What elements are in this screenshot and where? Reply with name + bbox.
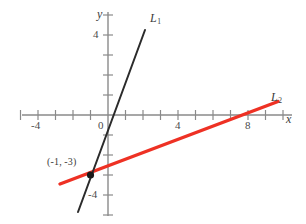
line-L1	[78, 30, 145, 212]
line-L2-label: L2	[271, 91, 281, 103]
line-L1-label-base: L	[150, 11, 157, 25]
intersection-point-marker	[87, 171, 94, 178]
y-tick-label-4: 4	[93, 29, 99, 40]
x-tick-label-4: 4	[175, 120, 181, 131]
line-L1-label: L1	[150, 12, 160, 24]
x-tick-label-8: 8	[245, 120, 251, 131]
graph-canvas	[0, 0, 306, 224]
x-tick-label-0: 0	[98, 120, 104, 131]
line-L2-label-base: L	[271, 90, 278, 104]
line-L1-label-subscript: 1	[157, 17, 161, 26]
y-tick-label-neg4: -4	[88, 189, 97, 200]
y-axis-label: y	[97, 8, 102, 20]
x-axis-label: x	[286, 113, 291, 125]
line-L2-label-subscript: 2	[278, 96, 282, 105]
coordinate-graph-figure: y x -4 0 4 8 4 -4 L1 L2 (-1, -3)	[0, 0, 306, 224]
intersection-point-label: (-1, -3)	[47, 157, 76, 167]
x-tick-label-neg4: -4	[31, 120, 40, 131]
